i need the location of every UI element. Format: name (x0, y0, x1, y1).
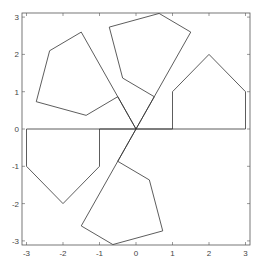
y-tick-label: 3 (15, 13, 20, 22)
x-tick-labels: -3-2-10123 (23, 249, 248, 258)
x-tick-label: -3 (23, 249, 31, 258)
y-tick-labels: -3-2-10123 (12, 13, 20, 246)
house-polygon-rot180 (27, 129, 137, 204)
y-tick-label: 2 (15, 50, 20, 59)
x-tick-label: 3 (243, 249, 248, 258)
x-tick-label: -1 (96, 249, 104, 258)
x-tick-label: -2 (59, 249, 67, 258)
rotated-house-polygons (27, 13, 246, 244)
house-polygon-rot120 (36, 32, 136, 129)
y-tick-label: -2 (12, 200, 20, 209)
chart-plot: -3-2-10123 -3-2-10123 (0, 0, 264, 269)
house-polygon-rot240 (81, 129, 162, 245)
x-tick-label: 2 (207, 249, 212, 258)
house-polygon-rot60 (109, 13, 190, 129)
y-tick-label: 0 (15, 125, 20, 134)
y-tick-label: 1 (15, 88, 20, 97)
y-tick-label: -3 (12, 237, 20, 246)
y-tick-label: -1 (12, 162, 20, 171)
house-polygon-rot0 (136, 54, 246, 129)
x-tick-label: 1 (170, 249, 175, 258)
x-tick-label: 0 (134, 249, 139, 258)
